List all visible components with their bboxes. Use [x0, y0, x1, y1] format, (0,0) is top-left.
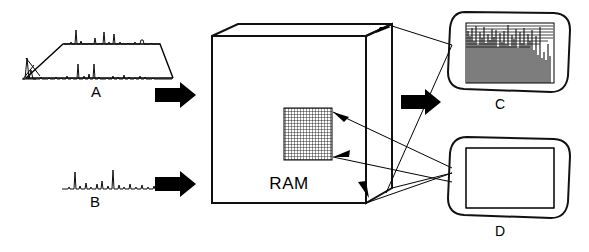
monitor-c-screen-bars — [466, 25, 553, 83]
diagram-svg: A B RAM — [0, 0, 589, 252]
magnification-trapezoid-a — [26, 44, 173, 78]
input-a-label: A — [91, 83, 101, 100]
arrow-ram-to-monitors — [401, 89, 441, 115]
waveform-a-trace — [23, 64, 172, 79]
input-b-label: B — [90, 193, 100, 210]
arrow-a-to-ram — [155, 82, 196, 108]
ram-label: RAM — [269, 174, 308, 193]
monitor-c-label: C — [495, 96, 505, 112]
diagram-canvas: A B RAM — [0, 0, 589, 252]
waveform-a-magnified — [64, 30, 160, 44]
ram-memory-grid — [284, 108, 332, 160]
monitor-d-label: D — [495, 223, 505, 239]
input-spectrum-a: A — [22, 30, 173, 100]
monitor-d: D — [448, 137, 570, 239]
monitor-c: C — [448, 12, 570, 112]
ram-cube: RAM — [212, 24, 392, 203]
arrow-b-to-ram — [155, 171, 196, 197]
